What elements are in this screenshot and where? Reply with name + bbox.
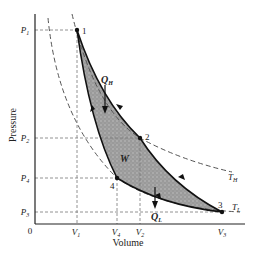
svg-text:V3: V3 xyxy=(218,227,227,238)
volume-labels: V1 V4 V2 V3 xyxy=(72,227,227,238)
x-axis-label: Volume xyxy=(113,237,144,248)
svg-text:V2: V2 xyxy=(136,227,145,238)
pv-diagram-svg: Pressure Volume 0 P1 P2 P4 P3 V1 V4 V2 V… xyxy=(0,0,257,258)
origin-label: 0 xyxy=(28,226,33,236)
svg-text:P2: P2 xyxy=(20,133,30,144)
pv-diagram: Pressure Volume 0 P1 P2 P4 P3 V1 V4 V2 V… xyxy=(0,0,257,258)
ql-label: QL xyxy=(151,211,162,223)
svg-text:V1: V1 xyxy=(72,227,81,238)
y-axis-label: Pressure xyxy=(7,108,18,142)
svg-text:V4: V4 xyxy=(112,227,121,238)
cycle-work-area xyxy=(77,30,222,212)
svg-text:3: 3 xyxy=(218,200,223,210)
svg-text:P4: P4 xyxy=(20,173,30,184)
pressure-labels: P1 P2 P4 P3 xyxy=(20,25,30,218)
work-label: W xyxy=(120,153,130,164)
qh-label: QH xyxy=(101,74,113,86)
svg-text:1: 1 xyxy=(82,26,87,36)
svg-text:P3: P3 xyxy=(20,207,30,218)
svg-text:2: 2 xyxy=(145,132,150,142)
tl-label: TL xyxy=(232,202,241,213)
svg-text:P1: P1 xyxy=(20,25,30,36)
svg-text:4: 4 xyxy=(110,181,115,191)
th-label: TH xyxy=(228,172,238,183)
